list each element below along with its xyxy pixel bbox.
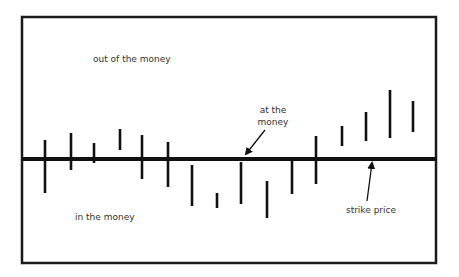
in-the-money-label: in the money (75, 212, 135, 222)
price-bars (45, 90, 413, 218)
diagram-frame (22, 17, 436, 263)
at-the-money-label-line2: money (258, 117, 290, 127)
at-the-money-arrow-icon (246, 130, 265, 154)
out-of-the-money-label: out of the money (93, 54, 171, 64)
at-the-money-label-line1: at the (260, 105, 287, 115)
strike-price-label: strike price (346, 205, 397, 215)
option-moneyness-diagram: out of the money in the money at the mon… (0, 0, 459, 277)
strike-price-arrow-icon (367, 163, 372, 201)
